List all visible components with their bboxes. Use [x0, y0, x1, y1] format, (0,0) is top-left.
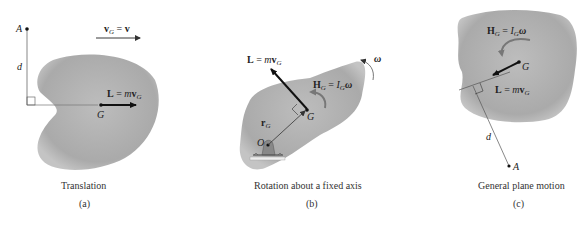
- angular-velocity-label: ω: [374, 53, 381, 64]
- right-angle-mark-a: [27, 97, 35, 105]
- point-label-a: A: [15, 23, 23, 34]
- pivot-label: O: [257, 137, 264, 148]
- diagram-canvas: A d vG = v L = mvG G Translation (a) O r…: [0, 0, 583, 226]
- tag-a: (a): [79, 198, 90, 210]
- rigid-body-c: [458, 10, 577, 122]
- center-label-b: G: [307, 111, 314, 122]
- panel-translation: A d vG = v L = mvG G Translation (a): [15, 23, 159, 210]
- point-a-dot: [25, 27, 29, 31]
- distance-label-c: d: [486, 131, 492, 142]
- point-a-dot-c: [507, 164, 510, 167]
- caption-c: General plane motion: [478, 180, 565, 191]
- velocity-label: vG = v: [104, 23, 130, 36]
- center-label-c: G: [522, 61, 529, 72]
- caption-a: Translation: [61, 180, 106, 191]
- point-label-c: A: [512, 161, 520, 172]
- panel-rotation: O rG G L = mvG HG = IGω ω Rotation about…: [240, 53, 381, 210]
- tag-b: (b): [306, 198, 318, 210]
- center-label-a: G: [97, 109, 104, 120]
- distance-label-a: d: [17, 61, 23, 72]
- caption-b: Rotation about a fixed axis: [254, 180, 362, 191]
- momentum-label-b: L = mvG: [247, 54, 282, 67]
- center-dot-a: [99, 103, 103, 107]
- panel-general-plane-motion: A d G L = mvG HG = IGω General plane mot…: [458, 10, 577, 210]
- center-dot-c: [517, 60, 521, 64]
- rigid-body-b: [240, 62, 366, 170]
- tag-c: (c): [513, 198, 524, 210]
